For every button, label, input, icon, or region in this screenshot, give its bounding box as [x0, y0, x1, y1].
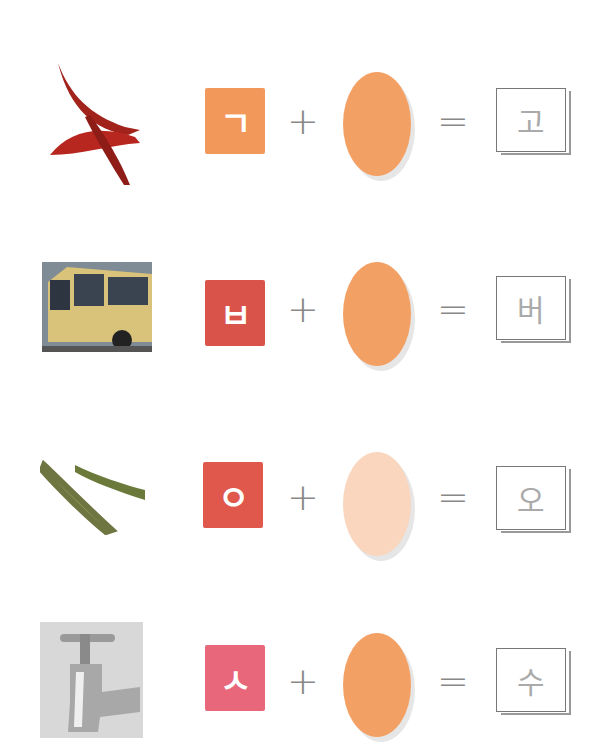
equals-sign: =	[437, 102, 469, 140]
vowel-oval-blank[interactable]	[343, 72, 411, 176]
result-syllable-card: 고	[496, 88, 566, 152]
plus-sign: +	[287, 478, 319, 516]
vowel-oval-blank[interactable]	[343, 262, 411, 366]
equals-sign: =	[437, 478, 469, 516]
plus-sign: +	[287, 102, 319, 140]
equals-sign: =	[437, 290, 469, 328]
vowel-oval-blank[interactable]	[343, 452, 411, 556]
bus-image	[42, 262, 152, 352]
chili-pepper-image	[40, 55, 150, 190]
consonant-tile: ㅇ	[203, 462, 263, 528]
result-syllable-card: 오	[496, 466, 566, 530]
result-syllable-card: 버	[496, 276, 566, 340]
consonant-tile: ㅂ	[205, 280, 265, 346]
equals-sign: =	[437, 662, 469, 700]
result-syllable-card: 수	[496, 648, 566, 712]
faucet-image	[40, 622, 143, 738]
cucumber-image	[40, 460, 148, 535]
vowel-oval-blank[interactable]	[343, 633, 411, 737]
consonant-tile: ㅅ	[205, 645, 265, 711]
plus-sign: +	[287, 662, 319, 700]
consonant-tile: ㄱ	[205, 88, 265, 154]
plus-sign: +	[287, 290, 319, 328]
